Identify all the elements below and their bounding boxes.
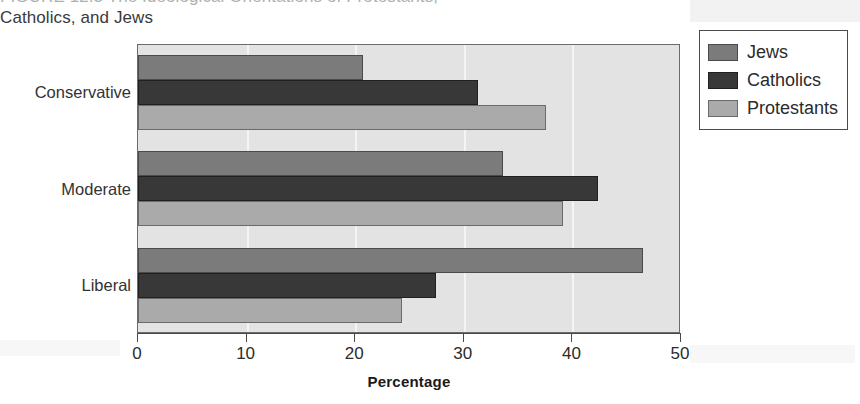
- bar-liberal-protestants: [138, 298, 402, 323]
- bar-liberal-catholics: [138, 273, 436, 298]
- bar-moderate-catholics: [138, 176, 598, 201]
- legend-item-catholics: Catholics: [708, 66, 838, 94]
- x-tick-30: [463, 333, 464, 342]
- legend-label-protestants: Protestants: [747, 98, 838, 119]
- legend-item-jews: Jews: [708, 38, 838, 66]
- bars-layer: [138, 45, 679, 332]
- y-axis-label-liberal: Liberal: [1, 275, 131, 294]
- legend-label-catholics: Catholics: [747, 70, 821, 91]
- x-axis-title: Percentage: [137, 373, 681, 390]
- x-tick-label-0: 0: [132, 344, 141, 364]
- figure-title-line-2: Catholics, and Jews: [0, 7, 700, 28]
- legend-label-jews: Jews: [747, 42, 788, 63]
- bar-conservative-catholics: [138, 80, 478, 105]
- legend-item-protestants: Protestants: [708, 94, 838, 122]
- y-axis-label-conservative: Conservative: [1, 83, 131, 102]
- bar-moderate-protestants: [138, 201, 563, 226]
- bar-liberal-jews: [138, 248, 643, 273]
- x-tick-label-20: 20: [345, 344, 364, 364]
- x-tick-0: [137, 333, 138, 342]
- y-axis-labels: Conservative Moderate Liberal: [0, 44, 131, 333]
- scan-artifact: [690, 0, 860, 22]
- figure-root: FIGURE 12.3 The Ideological Orientations…: [0, 0, 860, 404]
- figure-title-line-1: FIGURE 12.3 The Ideological Orientations…: [0, 0, 700, 7]
- bar-moderate-jews: [138, 151, 503, 176]
- x-axis-line: [137, 333, 681, 334]
- bar-conservative-protestants: [138, 105, 546, 130]
- bar-conservative-jews: [138, 55, 363, 80]
- plot-area: [137, 44, 680, 333]
- x-tick-10: [246, 333, 247, 342]
- scan-artifact: [690, 345, 855, 363]
- legend: Jews Catholics Protestants: [699, 30, 848, 130]
- x-tick-label-40: 40: [562, 344, 581, 364]
- x-tick-40: [571, 333, 572, 342]
- x-tick-label-50: 50: [671, 344, 690, 364]
- x-tick-50: [680, 333, 681, 342]
- y-axis-label-moderate: Moderate: [1, 179, 131, 198]
- figure-title: FIGURE 12.3 The Ideological Orientations…: [0, 0, 700, 28]
- x-tick-20: [354, 333, 355, 342]
- catholics-swatch-icon: [708, 72, 738, 89]
- protestants-swatch-icon: [708, 100, 738, 117]
- x-tick-label-30: 30: [453, 344, 472, 364]
- scan-artifact: [0, 340, 120, 356]
- x-tick-label-10: 10: [236, 344, 255, 364]
- jews-swatch-icon: [708, 44, 738, 61]
